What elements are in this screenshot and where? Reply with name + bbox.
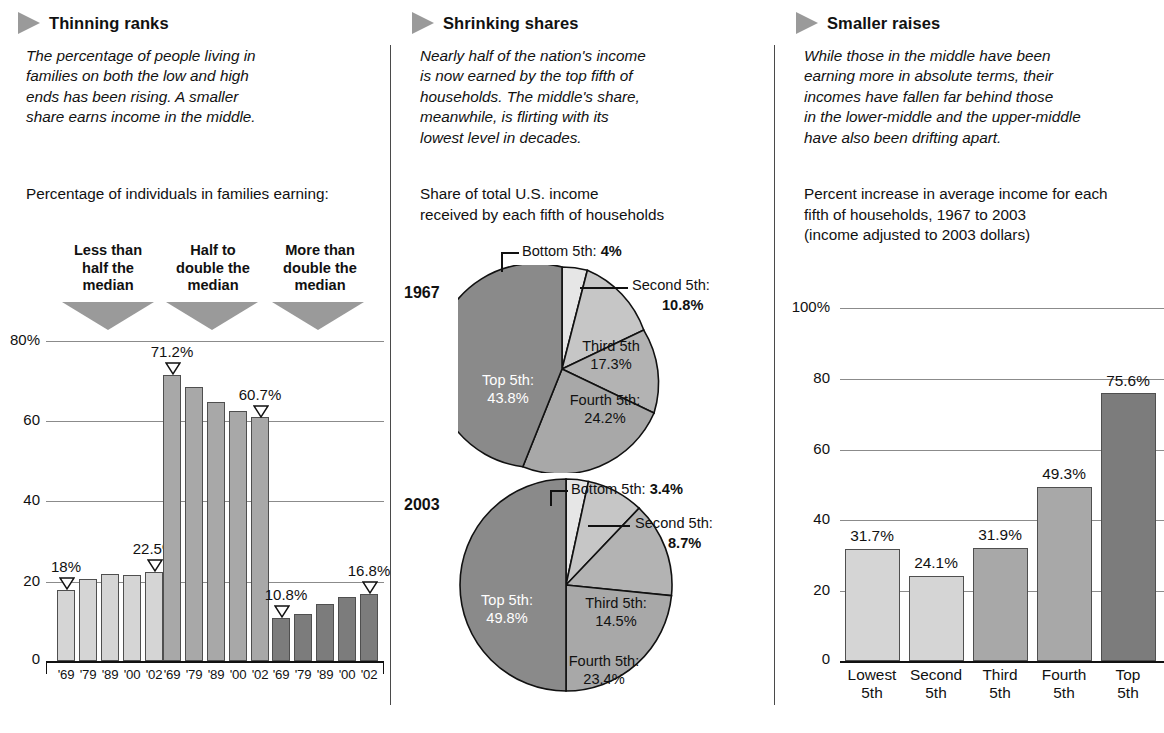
bar-g2-79 <box>185 387 203 662</box>
panel-smaller-raises: Smaller raises While those in the middle… <box>774 0 1164 733</box>
pie-2003-third-label: Third 5th: 14.5% <box>566 595 666 630</box>
group-heading-1: Less than half the median <box>62 242 154 295</box>
value-label-g2-last: 60.7% <box>225 386 295 403</box>
bar-g3-02 <box>360 594 378 661</box>
bar-g3-69 <box>272 618 290 661</box>
panel-shrinking-shares: Shrinking shares Nearly half of the nati… <box>390 0 774 733</box>
chart3-ytick-100: 100% <box>774 298 830 315</box>
value-label-g1-first: 18% <box>36 558 96 575</box>
pie-1967-top-label: Top 5th: 43.8% <box>464 372 552 407</box>
axis-end-tick-right <box>383 662 384 674</box>
value-marker-g3-first-icon <box>274 604 290 622</box>
panel-3-caption: Percent increase in average income for e… <box>804 184 1164 246</box>
chart3-xlabel-third: Third 5th <box>968 666 1032 702</box>
chart3-ytick-40: 40 <box>774 510 830 527</box>
chart3-x-axis <box>840 661 1164 663</box>
chart3-xlabel-second: Second 5th <box>904 666 968 702</box>
bar-g1-02 <box>145 572 163 661</box>
chart3-xlabel-lowest: Lowest 5th <box>840 666 904 702</box>
chart3-bar-lowest <box>845 549 900 661</box>
pie-1967-bottom-label: Bottom 5th: 4% <box>522 243 622 261</box>
pie-1967-second-leader <box>580 287 628 289</box>
bar-g2-89 <box>207 402 225 661</box>
chart3-xlabel-top: Top 5th <box>1096 666 1160 702</box>
panel-1-caption: Percentage of individuals in families ea… <box>26 184 376 205</box>
group-heading-2: Half to double the median <box>164 242 262 295</box>
panel-2-header: Shrinking shares <box>412 12 578 34</box>
xtick-g3-4: '02 <box>355 667 383 682</box>
chart3-ytick-80: 80 <box>774 369 830 386</box>
bar-g1-69 <box>57 590 75 661</box>
bar-g1-89 <box>101 574 119 661</box>
chart3-gridline-100 <box>840 308 1164 309</box>
panel-1-title: Thinning ranks <box>49 14 169 33</box>
chart1-x-axis <box>46 661 384 663</box>
bar-g1-79 <box>79 579 97 661</box>
pie-2003-bottom-leader-v <box>550 490 552 506</box>
chart1-ytick-20: 20 <box>0 572 40 589</box>
pie-1967-second-label: Second 5th: <box>632 277 710 295</box>
chart3-value-second: 24.1% <box>907 554 965 572</box>
pie-2003-fourth-label: Fourth 5th: 23.4% <box>548 653 660 688</box>
pie-2003-second-leader <box>588 525 630 527</box>
value-marker-g2-first-icon <box>165 361 181 379</box>
pie-1967-third-label: Third 5th 17.3% <box>565 338 657 373</box>
pie-1967-fourth-label: Fourth 5th: 24.2% <box>550 392 660 427</box>
value-marker-g2-last-icon <box>253 404 269 422</box>
value-label-g2-first: 71.2% <box>137 343 207 360</box>
panel-2-caption: Share of total U.S. income received by e… <box>420 184 750 225</box>
pie-2003-second-label: Second 5th: <box>635 515 713 533</box>
chart3-bar-second <box>909 576 964 661</box>
chart1-ytick-80: 80% <box>0 331 40 348</box>
pie-1967-second-value: 10.8% <box>662 297 703 315</box>
chart3-bar-third <box>973 548 1028 661</box>
bar-g2-00 <box>229 411 247 661</box>
bar-g2-02 <box>251 417 269 661</box>
chart3-value-top: 75.6% <box>1099 372 1157 390</box>
panel-1-blurb: The percentage of people living in famil… <box>26 46 356 128</box>
pie-2003-bottom-leader-h <box>550 490 568 492</box>
play-triangle-icon <box>412 12 434 34</box>
pie-2003-top-label: Top 5th: 49.8% <box>462 592 552 627</box>
chart1-ytick-60: 60 <box>0 411 40 428</box>
play-triangle-icon <box>796 12 818 34</box>
pie-2003-bottom-label: Bottom 5th: 3.4% <box>571 481 683 499</box>
group-arrow-3-icon <box>272 300 364 332</box>
bar-g1-00 <box>123 575 141 662</box>
pie-2003-year: 2003 <box>404 496 440 514</box>
chart3-ytick-20: 20 <box>774 581 830 598</box>
chart1-ytick-0: 0 <box>0 650 40 667</box>
pie-1967-year: 1967 <box>404 284 440 302</box>
chart3-value-fourth: 49.3% <box>1035 465 1093 483</box>
bar-g3-79 <box>294 614 312 661</box>
panel-3-header: Smaller raises <box>796 12 940 34</box>
gridline-80 <box>46 341 384 342</box>
panel-1-header: Thinning ranks <box>18 12 169 34</box>
value-marker-g3-last-icon <box>362 580 378 598</box>
panel-thinning-ranks: Thinning ranks The percentage of people … <box>0 0 390 733</box>
panel-3-title: Smaller raises <box>827 14 940 33</box>
value-label-g3-first: 10.8% <box>251 586 321 603</box>
bar-g3-00 <box>338 597 356 661</box>
panel-3-blurb: While those in the middle have been earn… <box>804 46 1164 148</box>
group-arrow-1-icon <box>62 300 154 332</box>
group-heading-3: More than double the median <box>270 242 370 295</box>
axis-end-tick-left <box>46 662 47 674</box>
pie-1967-bottom-leader-v <box>501 252 503 272</box>
chart3-ytick-60: 60 <box>774 440 830 457</box>
bar-g2-69 <box>163 375 181 661</box>
chart3-value-lowest: 31.7% <box>843 527 901 545</box>
chart3-xlabel-fourth: Fourth 5th <box>1032 666 1096 702</box>
pie-1967-bottom-leader-h <box>501 252 519 254</box>
chart3-ytick-0: 0 <box>774 650 830 667</box>
play-triangle-icon <box>18 12 40 34</box>
pie-2003-second-value: 8.7% <box>668 535 701 553</box>
group-arrow-2-icon <box>166 300 258 332</box>
bar-g3-89 <box>316 604 334 661</box>
value-marker-g1-last-icon <box>147 558 163 576</box>
chart1-ytick-40: 40 <box>0 491 40 508</box>
chart3-bar-fourth <box>1037 487 1092 662</box>
chart3-bar-top <box>1101 393 1156 661</box>
value-marker-g1-first-icon <box>59 576 75 594</box>
panel-2-blurb: Nearly half of the nation's income is no… <box>420 46 740 148</box>
